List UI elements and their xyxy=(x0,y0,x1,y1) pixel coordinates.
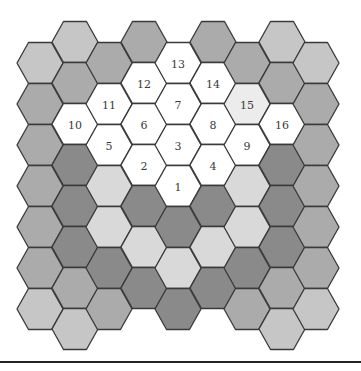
hex-label: 12 xyxy=(137,78,151,91)
hex-label: 15 xyxy=(240,99,254,112)
hex-label: 6 xyxy=(141,119,148,132)
hex-label: 4 xyxy=(210,160,217,173)
hex-label: 2 xyxy=(141,160,148,173)
hex-label: 11 xyxy=(102,99,116,112)
hex-label: 3 xyxy=(175,140,182,153)
hex-label: 7 xyxy=(175,99,182,112)
hex-label: 8 xyxy=(210,119,217,132)
bottom-rule-divider xyxy=(0,361,361,363)
hex-label: 14 xyxy=(206,78,220,91)
hex-grid-diagram: 10115126213731148415916 xyxy=(0,0,361,371)
hex-label: 9 xyxy=(244,140,251,153)
hex-label: 16 xyxy=(275,119,289,132)
hex-label: 5 xyxy=(106,140,113,153)
hex-label: 13 xyxy=(171,58,185,71)
hex-label: 1 xyxy=(175,181,182,194)
hex-label: 10 xyxy=(68,119,82,132)
